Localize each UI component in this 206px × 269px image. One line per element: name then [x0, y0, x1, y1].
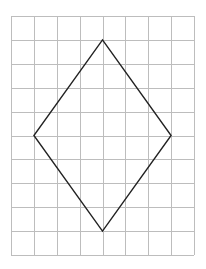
grid-figure [0, 0, 206, 269]
